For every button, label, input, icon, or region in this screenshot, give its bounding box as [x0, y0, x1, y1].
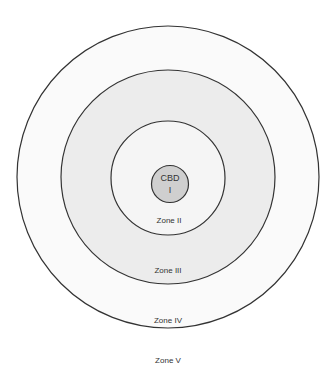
zone-v-label: Zone V	[155, 356, 181, 365]
concentric-zone-diagram: CBD I Zone II Zone III Zone IV Zone V	[0, 0, 336, 370]
cbd-label: CBD	[160, 173, 180, 183]
zone-iv-label: Zone IV	[154, 316, 183, 325]
cbd-zone-number: I	[169, 185, 172, 195]
zone-ii-label: Zone II	[157, 216, 182, 225]
cbd-circle	[152, 166, 189, 203]
zone-iii-label: Zone III	[154, 266, 181, 275]
